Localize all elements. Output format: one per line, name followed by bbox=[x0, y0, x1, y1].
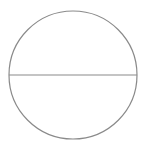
diagram-canvas bbox=[0, 0, 143, 150]
